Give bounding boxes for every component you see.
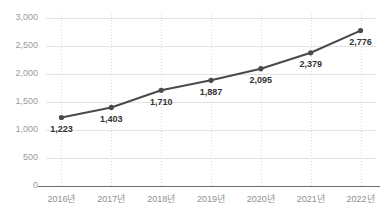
y-axis-tick-label: 500	[23, 152, 38, 162]
data-point-label: 2,776	[349, 37, 372, 47]
y-axis-tick-label: 1,500	[15, 96, 38, 106]
y-axis-tick-label: 1,000	[15, 124, 38, 134]
y-axis-tick-label: 2,500	[15, 40, 38, 50]
data-point-marker	[258, 66, 263, 71]
y-axis-tick-label: 2,000	[15, 68, 38, 78]
x-axis-tick-label: 2016년	[47, 194, 75, 204]
data-point-label: 1,887	[200, 87, 223, 97]
data-point-label: 1,223	[50, 124, 73, 134]
x-axis-tick-labels: 2016년2017년2018년2019년2020년2021년2022년	[47, 194, 374, 204]
x-axis-tick-label: 2022년	[347, 194, 375, 204]
vertical-gridlines	[62, 14, 362, 186]
y-axis-tick-labels: 05001,0001,5002,0002,5003,000	[15, 12, 38, 190]
x-axis-tick-label: 2017년	[97, 194, 125, 204]
x-axis-tick-label: 2018년	[147, 194, 175, 204]
data-point-marker	[208, 78, 213, 83]
data-point-label: 2,379	[299, 59, 322, 69]
data-point-label: 1,403	[100, 114, 123, 124]
x-axis-tick-label: 2019년	[197, 194, 225, 204]
line-chart: 05001,0001,5002,0002,5003,000 1,2231,403…	[0, 0, 385, 222]
data-point-label: 2,095	[250, 75, 273, 85]
y-axis-tick-label: 0	[33, 180, 38, 190]
x-axis-tick-label: 2020년	[247, 194, 275, 204]
y-axis-tick-label: 3,000	[15, 12, 38, 22]
data-point-marker	[159, 88, 164, 93]
x-axis-tick-label: 2021년	[297, 194, 325, 204]
data-point-marker	[109, 105, 114, 110]
chart-canvas: 05001,0001,5002,0002,5003,000 1,2231,403…	[0, 0, 385, 222]
data-point-marker	[59, 115, 64, 120]
data-point-marker	[308, 50, 313, 55]
data-point-marker	[358, 28, 363, 33]
data-point-label: 1,710	[150, 97, 173, 107]
